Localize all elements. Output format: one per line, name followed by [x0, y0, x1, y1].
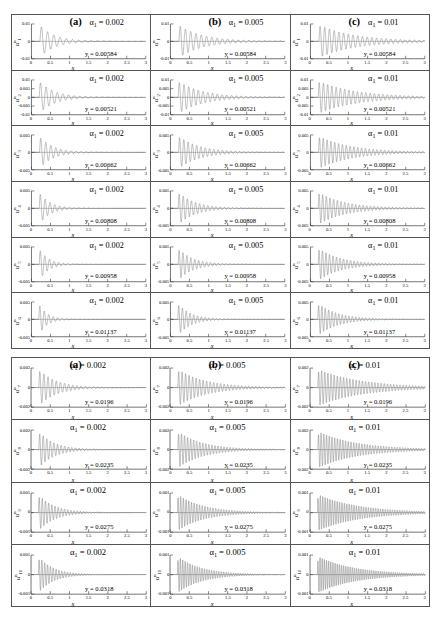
x-axis-label: x: [211, 175, 214, 181]
x-axis-tick-label: 2.5: [263, 470, 269, 475]
frequency-annotation: y = 0.01137: [85, 328, 117, 335]
y-axis-tick-label: -0.001: [292, 591, 309, 596]
y-axis-tick-label: 0: [292, 385, 309, 390]
x-axis-tick-label: 2: [246, 595, 248, 600]
plot-panel-upper-r1-c1[interactable]: (a)α1 = 0.002y = 0.00584un1x0.010-0.0100…: [12, 15, 151, 70]
x-axis-tick-label: 0.5: [326, 595, 332, 600]
frequency-prefix: y =: [364, 272, 374, 279]
x-axis-tick-label: 3: [424, 595, 426, 600]
x-axis-tick-label: 3: [424, 171, 426, 176]
plot-panel-upper-r2-c2[interactable]: α1 = 0.005y = 0.00521un2x0.010.0050-0.00…: [151, 71, 290, 126]
plot-panel-upper-r1-c2[interactable]: (b)α1 = 0.005y = 0.00584un1x0.010-0.0100…: [151, 15, 290, 70]
plot-panel-lower-r4-c1[interactable]: α1 = 0.002y = 0.0318un10x0.0010-0.00100.…: [12, 545, 151, 606]
alpha-parameter-label: α1 = 0.01: [368, 18, 398, 28]
x-axis-tick-label: 0: [309, 227, 311, 232]
x-axis-tick-label: 2: [107, 60, 109, 65]
frequency-annotation: y = 0.0318: [224, 585, 252, 592]
alpha-value: 0.005: [226, 547, 245, 557]
y-axis-tick-label: 0.005: [152, 133, 169, 138]
plot-panel-lower-r3-c2[interactable]: α1 = 0.005y = 0.0275un9x0.0010-0.00100.5…: [151, 483, 290, 544]
plot-panel-upper-r4-c1[interactable]: α1 = 0.002y = 0.00808un4x0.0050-0.00500.…: [12, 182, 151, 237]
x-axis-tick-label: 2: [107, 595, 109, 600]
alpha-value: 0.01: [384, 241, 398, 250]
frequency-annotation: y = 0.0318: [85, 585, 113, 592]
frequency-annotation: y = 0.0275: [224, 523, 252, 530]
panel-row: (a)α1 = 0.002y = 0.00584un1x0.010-0.0100…: [12, 15, 429, 71]
x-axis-tick-label: 2: [246, 227, 248, 232]
plot-panel-upper-r3-c3[interactable]: α1 = 0.01y = 0.00662un3x0.0050-0.00500.5…: [291, 126, 429, 181]
frequency-annotation: y = 0.00521: [364, 105, 396, 112]
plot-panel-lower-r1-c2[interactable]: (b)α1 = 0.005y = 0.0196un7x0.0020-0.0020…: [151, 358, 290, 419]
panel-row: (a)α1 = 0.002y = 0.0196un7x0.0020-0.0020…: [12, 358, 429, 420]
plot-panel-upper-r6-c3[interactable]: α1 = 0.01y = 0.01137un6x0.0050-0.00500.5…: [291, 293, 429, 348]
y-axis-tick-label: 0: [292, 447, 309, 452]
y-axis-tick-label: 0: [292, 317, 309, 322]
x-axis-tick-label: 1.5: [86, 283, 92, 288]
x-axis-tick-label: 1: [347, 470, 349, 475]
x-axis-tick-label: 1: [347, 338, 349, 343]
y-axis-tick-label: 0: [152, 317, 169, 322]
frequency-prefix: y =: [364, 217, 374, 224]
frequency-prefix: y =: [224, 398, 234, 405]
x-axis-tick-label: 2: [246, 116, 248, 121]
plot-panel-upper-r5-c2[interactable]: α1 = 0.005y = 0.00958un5x0.0050-0.00500.…: [151, 238, 290, 293]
plot-panel-lower-r3-c1[interactable]: α1 = 0.002y = 0.0275un9x0.0010-0.00100.5…: [12, 483, 151, 544]
alpha-equals: =: [217, 422, 226, 432]
plot-panel-lower-r2-c2[interactable]: α1 = 0.005y = 0.0235un8x0.0020-0.00200.5…: [151, 420, 290, 481]
x-axis-tick-label: 0: [30, 227, 32, 232]
x-axis-tick-label: 1: [208, 338, 210, 343]
frequency-value: 0.0196: [374, 398, 392, 405]
frequency-prefix: y =: [364, 50, 374, 57]
x-axis-tick-label: 1: [347, 533, 349, 538]
plot-panel-upper-r1-c3[interactable]: (c)α1 = 0.01y = 0.00584un1x0.010-0.0100.…: [291, 15, 429, 70]
y-axis-tick-label: 0.005: [152, 86, 169, 91]
y-axis-tick-label: 0.01: [152, 21, 169, 26]
frequency-annotation: y = 0.0235: [364, 461, 392, 468]
plot-panel-lower-r3-c3[interactable]: α1 = 0.01y = 0.0275un9x0.0010-0.00100.51…: [291, 483, 429, 544]
alpha-value: 0.005: [226, 485, 245, 495]
alpha-equals: =: [236, 296, 245, 305]
x-axis-tick-label: 3: [145, 595, 147, 600]
plot-panel-upper-r2-c1[interactable]: α1 = 0.002y = 0.00521un2x0.010.0050-0.00…: [12, 71, 151, 126]
x-axis-tick-label: 1: [347, 116, 349, 121]
y-axis-tick-label: 0.001: [152, 552, 169, 557]
plot-panel-lower-r2-c1[interactable]: α1 = 0.002y = 0.0235un8x0.0020-0.00200.5…: [12, 420, 151, 481]
y-axis-tick-label: 0: [13, 262, 30, 267]
plot-panel-upper-r6-c2[interactable]: α1 = 0.005y = 0.01137un6x0.0050-0.00500.…: [151, 293, 290, 348]
plot-panel-upper-r5-c3[interactable]: α1 = 0.01y = 0.00958un5x0.0050-0.00500.5…: [291, 238, 429, 293]
frequency-annotation: y = 0.00808: [85, 217, 117, 224]
x-axis-tick-label: 1: [68, 283, 70, 288]
y-axis-tick-label: 0: [13, 95, 30, 100]
plot-panel-upper-r2-c3[interactable]: α1 = 0.01y = 0.00521un2x0.010.0050-0.005…: [291, 71, 429, 126]
x-axis-tick-label: 2.5: [124, 60, 130, 65]
y-axis-tick-label: -0.001: [152, 529, 169, 534]
y-axis-tick-label: -0.01: [13, 112, 30, 117]
y-axis-tick-label: 0.01: [292, 21, 309, 26]
panel-row: α1 = 0.002y = 0.00662un3x0.0050-0.00500.…: [12, 126, 429, 182]
alpha-parameter-label: α1 = 0.005: [229, 185, 263, 195]
alpha-equals: =: [375, 129, 384, 138]
frequency-prefix: y =: [85, 105, 95, 112]
plot-panel-lower-r1-c1[interactable]: (a)α1 = 0.002y = 0.0196un7x0.0020-0.0020…: [12, 358, 151, 419]
plot-panel-upper-r6-c1[interactable]: α1 = 0.002y = 0.01137un6x0.0050-0.00500.…: [12, 293, 151, 348]
y-axis-tick-label: 0: [13, 150, 30, 155]
plot-panel-lower-r1-c3[interactable]: (c)α1 = 0.01y = 0.0196un7x0.0020-0.00200…: [291, 358, 429, 419]
alpha-value: 0.005: [245, 241, 263, 250]
plot-panel-upper-r5-c1[interactable]: α1 = 0.002y = 0.00958un5x0.0050-0.00500.…: [12, 238, 151, 293]
plot-panel-lower-r4-c3[interactable]: α1 = 0.01y = 0.0318un10x0.0010-0.00100.5…: [291, 545, 429, 606]
alpha-parameter-label: α1 = 0.005: [229, 241, 263, 251]
plot-panel-lower-r2-c3[interactable]: α1 = 0.01y = 0.0235un8x0.0020-0.00200.51…: [291, 420, 429, 481]
plot-panel-upper-r4-c3[interactable]: α1 = 0.01y = 0.00808un4x0.0050-0.00500.5…: [291, 182, 429, 237]
panel-row: α1 = 0.002y = 0.00808un4x0.0050-0.00500.…: [12, 182, 429, 238]
plot-panel-upper-r4-c2[interactable]: α1 = 0.005y = 0.00808un4x0.0050-0.00500.…: [151, 182, 290, 237]
x-axis-tick-label: 0: [169, 60, 171, 65]
x-axis-tick-label: 1.5: [225, 171, 231, 176]
x-axis-tick-label: 2: [246, 60, 248, 65]
x-axis-tick-label: 2: [107, 470, 109, 475]
alpha-equals: =: [236, 185, 245, 194]
plot-panel-upper-r3-c1[interactable]: α1 = 0.002y = 0.00662un3x0.0050-0.00500.…: [12, 126, 151, 181]
plot-panel-lower-r4-c2[interactable]: α1 = 0.005y = 0.0318un10x0.0010-0.00100.…: [151, 545, 290, 606]
plot-panel-upper-r3-c2[interactable]: α1 = 0.005y = 0.00662un3x0.0050-0.00500.…: [151, 126, 290, 181]
x-axis-tick-label: 0: [309, 338, 311, 343]
frequency-prefix: y =: [85, 272, 95, 279]
